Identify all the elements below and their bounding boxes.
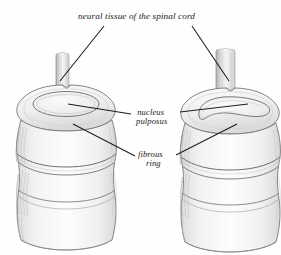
left-vertebra — [16, 53, 116, 251]
leader-title-left — [60, 26, 104, 81]
right-vertebra — [180, 49, 280, 253]
fibrous-label-line-2: ring — [144, 159, 163, 168]
vertebra-illustration-artwork — [0, 0, 281, 255]
right-vertebral-body — [180, 123, 280, 252]
left-nucleus-pulposus — [33, 92, 99, 117]
spinal-cord-label: neural tissue of the spinal cord — [78, 12, 195, 22]
right-spinal-cord — [216, 49, 235, 93]
nucleus-pulposus-label: nucleus pulposus — [134, 108, 167, 126]
fibrous-ring-label: fibrous ring — [138, 150, 163, 168]
left-vertebral-body — [16, 120, 116, 250]
anatomical-illustration: neural tissue of the spinal cord nucleus… — [0, 0, 281, 255]
nucleus-label-line-2: pulposus — [136, 117, 167, 126]
